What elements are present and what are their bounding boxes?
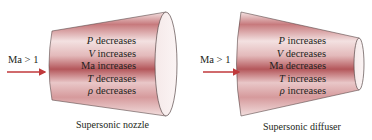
nozzle-property-list: P decreases V increases Ma increases T d… — [81, 35, 136, 98]
diffuser-property-mach: Ma decreases — [269, 60, 326, 73]
nozzle-inlet-mach-label: Ma > 1 — [8, 54, 38, 66]
diffuser-property-list: P increases V decreases Ma decreases T i… — [269, 35, 326, 98]
diffuser-property-pressure: P increases — [269, 35, 326, 48]
diffuser-property-velocity: V decreases — [269, 48, 326, 61]
diffuser-caption: Supersonic diffuser — [263, 121, 341, 132]
diffuser-inlet-mach-label: Ma > 1 — [200, 54, 230, 66]
nozzle-property-mach: Ma increases — [81, 60, 136, 73]
nozzle-property-velocity: V increases — [81, 48, 136, 61]
nozzle-property-density: ρ decreases — [81, 85, 136, 98]
nozzle-property-pressure: P decreases — [81, 35, 136, 48]
nozzle-property-temperature: T decreases — [81, 73, 136, 86]
nozzle-caption: Supersonic nozzle — [76, 119, 149, 130]
diffuser-property-density: ρ increases — [269, 85, 326, 98]
diffuser-property-temperature: T increases — [269, 73, 326, 86]
